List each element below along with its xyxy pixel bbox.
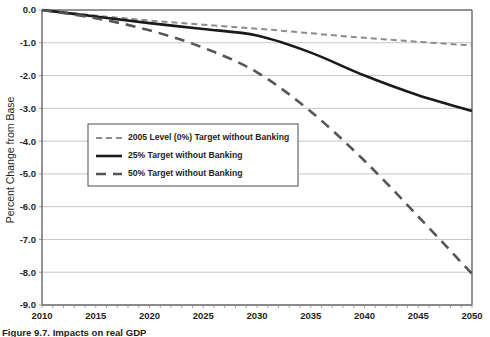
x-tick-label: 2035 — [300, 310, 322, 321]
y-axis-title: Percent Change from Base — [4, 97, 16, 224]
y-tick-label: 0.0 — [23, 4, 36, 15]
x-tick-label: 2045 — [408, 310, 430, 321]
chart-legend: 2005 Level (0%) Target without Banking25… — [88, 124, 298, 186]
figure-container: 0.0-1.0-2.0-3.0-4.0-5.0-6.0-7.0-8.0-9.0 … — [0, 0, 490, 337]
y-tick-label: -8.0 — [20, 267, 36, 278]
y-axis-tick-labels: 0.0-1.0-2.0-3.0-4.0-5.0-6.0-7.0-8.0-9.0 — [20, 4, 36, 310]
y-tick-label: -9.0 — [20, 299, 36, 310]
x-tick-label: 2010 — [31, 310, 52, 321]
legend-label-0: 2005 Level (0%) Target without Banking — [128, 132, 289, 142]
y-tick-label: -6.0 — [20, 201, 36, 212]
legend-label-2: 50% Target without Banking — [128, 168, 242, 178]
x-tick-label: 2040 — [354, 310, 375, 321]
x-tick-label: 2050 — [461, 310, 482, 321]
legend-label-1: 25% Target without Banking — [128, 150, 242, 160]
line-chart: 0.0-1.0-2.0-3.0-4.0-5.0-6.0-7.0-8.0-9.0 … — [0, 0, 490, 337]
y-tick-label: -2.0 — [20, 70, 36, 81]
y-axis-title-text: Percent Change from Base — [4, 97, 16, 224]
y-tick-label: -5.0 — [20, 168, 36, 179]
y-tick-label: -1.0 — [20, 37, 36, 48]
x-tick-label: 2030 — [246, 310, 267, 321]
figure-caption: Figure 9.7. Impacts on real GDP — [2, 327, 146, 337]
y-tick-label: -4.0 — [20, 136, 36, 147]
x-tick-label: 2020 — [139, 310, 160, 321]
x-tick-label: 2025 — [193, 310, 215, 321]
x-axis-tick-labels: 201020152020202520302035204020452050 — [31, 310, 482, 321]
x-tick-label: 2015 — [85, 310, 107, 321]
y-tick-label: -7.0 — [20, 234, 36, 245]
y-tick-label: -3.0 — [20, 103, 36, 114]
